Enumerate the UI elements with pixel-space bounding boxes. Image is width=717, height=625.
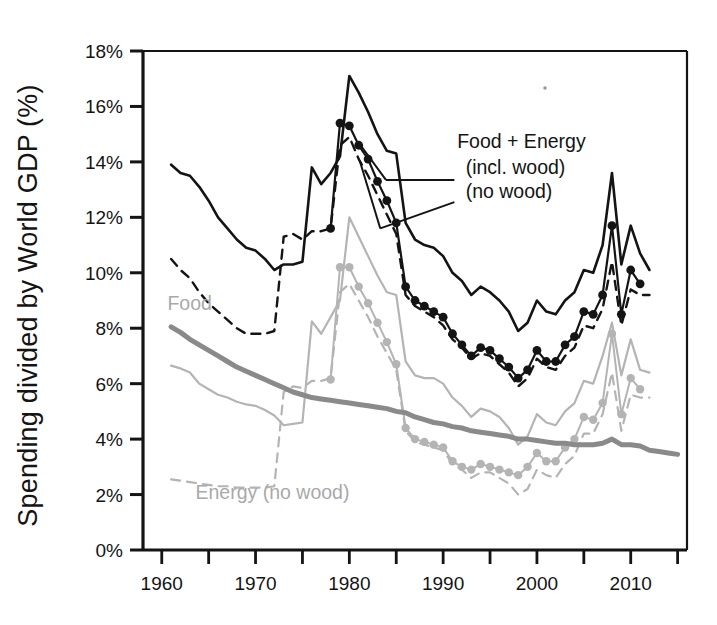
series-marker [392, 360, 400, 368]
series-marker [429, 307, 438, 316]
y-tick-label: 14% [85, 152, 123, 173]
series-marker [411, 296, 420, 305]
series-marker [627, 374, 635, 382]
series-marker [533, 346, 542, 355]
series-marker [514, 374, 523, 383]
annotation-incl-wood: (incl. wood) [466, 156, 566, 178]
series-marker [411, 435, 419, 443]
series-marker [476, 343, 485, 352]
series-marker [364, 299, 372, 307]
series-marker [551, 457, 559, 465]
series-marker [504, 363, 513, 372]
annotations: Food + Energy(incl. wood)(no wood)FoodEn… [167, 130, 586, 503]
series-marker [355, 282, 363, 290]
x-tick-label: 1970 [234, 573, 276, 594]
series-marker [570, 332, 579, 341]
series-marker [542, 357, 551, 366]
series-marker [495, 354, 504, 363]
series-line [171, 327, 677, 455]
x-tick-label: 2000 [516, 573, 558, 594]
y-axis-ticks: 0%2%4%6%8%10%12%14%16%18% [85, 41, 143, 561]
series-marker [514, 471, 522, 479]
series-marker [617, 310, 626, 319]
series-marker [580, 413, 588, 421]
series-marker [476, 460, 484, 468]
series-marker [505, 468, 513, 476]
x-axis-ticks [162, 550, 678, 564]
y-tick-label: 6% [96, 374, 124, 395]
series-marker [345, 263, 353, 271]
x-axis-labels: 196019701980199020002010 [141, 573, 652, 594]
y-tick-label: 2% [96, 485, 124, 506]
series-marker [636, 279, 645, 288]
series-marker [523, 365, 532, 374]
series-marker [373, 318, 381, 326]
x-tick-label: 1980 [328, 573, 370, 594]
series-marker [551, 357, 560, 366]
series-marker [467, 465, 475, 473]
series-line [171, 284, 649, 495]
series-marker [636, 385, 644, 393]
series-marker [495, 465, 503, 473]
x-tick-label: 1960 [141, 573, 183, 594]
series-marker [439, 313, 448, 322]
chart-root: Spending divided by World GDP (%) 0%2%4%… [0, 0, 717, 625]
series-marker [326, 224, 335, 233]
y-tick-label: 18% [85, 41, 123, 62]
series-marker [458, 463, 466, 471]
series-marker [448, 329, 457, 338]
series-marker [430, 440, 438, 448]
series-marker [589, 416, 597, 424]
series-marker [542, 457, 550, 465]
line-chart: 0%2%4%6%8%10%12%14%16%18%196019701980199… [0, 0, 717, 625]
series-marker [486, 346, 495, 355]
y-tick-label: 0% [96, 540, 124, 561]
annotation-food: Food [167, 292, 211, 314]
y-tick-label: 12% [85, 207, 123, 228]
series-marker [401, 282, 410, 291]
series-marker [486, 463, 494, 471]
series-marker [608, 221, 617, 230]
series-marker [579, 307, 588, 316]
series-marker [336, 263, 344, 271]
series-marker [401, 424, 409, 432]
series-marker [598, 399, 606, 407]
series-marker [458, 340, 467, 349]
series-marker [448, 457, 456, 465]
series-marker [626, 266, 635, 275]
series-marker [439, 443, 447, 451]
annotation-food-plus-energy: Food + Energy [457, 130, 586, 152]
series-marker [533, 449, 541, 457]
y-axis-title: Spending divided by World GDP (%) [13, 26, 44, 586]
x-tick-label: 1990 [422, 573, 464, 594]
series-marker [608, 330, 616, 338]
y-tick-label: 4% [96, 429, 124, 450]
series-marker [523, 463, 531, 471]
y-tick-label: 8% [96, 318, 124, 339]
series-marker [467, 352, 476, 361]
annotation-energy-no-wood: Energy (no wood) [196, 481, 350, 503]
series-marker [561, 340, 570, 349]
series-marker [589, 310, 598, 319]
scan-speck [543, 86, 547, 90]
series-marker [382, 196, 391, 205]
series-marker [326, 375, 334, 383]
series-marker [345, 121, 354, 130]
series-marker [373, 177, 382, 186]
y-tick-label: 10% [85, 263, 123, 284]
series-marker [420, 438, 428, 446]
series-line [171, 137, 649, 387]
series-marker [383, 338, 391, 346]
data-series-group [171, 76, 677, 495]
x-tick-label: 2010 [610, 573, 652, 594]
series-marker [617, 410, 625, 418]
y-tick-label: 16% [85, 96, 123, 117]
annotation-no-wood: (no wood) [466, 180, 553, 202]
series-marker [598, 291, 607, 300]
series-marker [420, 302, 429, 311]
